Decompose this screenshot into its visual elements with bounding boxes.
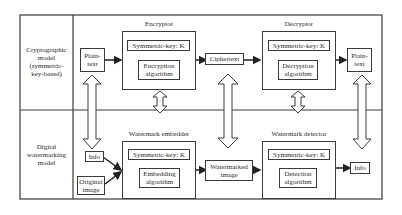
plaintext-output-box: Plain- text	[347, 48, 372, 72]
detector-title: Watermark detector	[262, 130, 336, 138]
decryption-algorithm-box: Decryption algorithm	[278, 60, 318, 80]
encryptor-title: Encryptor	[122, 20, 196, 28]
ciphertext-box: Ciphertext	[205, 53, 244, 65]
info-input-box: Info	[85, 151, 104, 162]
double-arrow-plaintext-info-right	[353, 75, 371, 149]
crypto-watermark-comparison-diagram: Cryptographic model (symmetric- key-base…	[0, 0, 402, 215]
embedding-algorithm-box: Embedding algorithm	[139, 168, 180, 188]
decryptor-title: Decryptor	[262, 20, 336, 28]
double-arrow-plaintext-info	[83, 75, 101, 149]
original-image-box: Original image	[77, 176, 105, 195]
arrow-info-to-embedder	[103, 157, 121, 170]
detector-key-box: Symmetric-key: K	[268, 149, 330, 160]
arrow-image-to-embedder	[105, 172, 121, 184]
embedder-key-box: Symmetric-key: K	[128, 149, 190, 160]
plaintext-input-box: Plain- text	[80, 48, 105, 72]
embedder-title: Watermark embedder	[122, 130, 196, 138]
decryptor-key-box: Symmetric-key: K	[268, 40, 330, 51]
diagram-lines	[0, 0, 402, 215]
row-label-watermark: Digital watermarking model	[20, 143, 73, 167]
encryption-algorithm-box: Encryption algorithm	[138, 60, 180, 80]
watermarked-image-box: Watermarked image	[205, 160, 253, 181]
info-output-box: Info	[350, 162, 370, 174]
encryptor-key-box: Symmetric-key: K	[127, 40, 190, 51]
detection-algorithm-box: Detection algorithm	[279, 168, 317, 188]
row-label-crypto: Cryptographic model (symmetric- key-base…	[20, 46, 73, 78]
double-arrow-ciphertext-watermarked	[218, 74, 238, 148]
